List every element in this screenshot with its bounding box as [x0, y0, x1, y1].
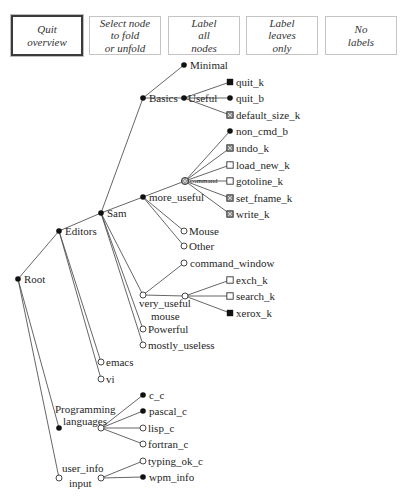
filled-circle-icon[interactable]	[140, 194, 146, 200]
node-label: write_k	[236, 208, 270, 220]
node-label: emacs	[106, 356, 133, 368]
open-circle-icon[interactable]	[98, 425, 104, 431]
open-circle-icon[interactable]	[98, 376, 104, 382]
node-label: search_k	[236, 290, 276, 302]
tree-node-powerful[interactable]: Powerful	[140, 323, 188, 335]
tree-node-useful[interactable]: Useful	[181, 92, 217, 104]
tree-edge	[101, 428, 143, 444]
tree-node-other[interactable]: Other	[181, 240, 214, 252]
hatched-square-icon[interactable]	[227, 112, 233, 118]
tree-node-lisp-c[interactable]: lisp_c	[140, 422, 174, 434]
open-circle-icon[interactable]	[98, 475, 104, 481]
filled-circle-icon[interactable]	[140, 392, 146, 398]
open-circle-icon[interactable]	[140, 342, 146, 348]
node-label: undo_k	[236, 142, 270, 154]
tree-node-wpm-info[interactable]: wpm_info	[140, 471, 195, 483]
open-square-icon[interactable]	[227, 178, 233, 184]
tree-node-default-size-k[interactable]: default_size_k	[227, 109, 301, 121]
open-circle-icon[interactable]	[98, 359, 104, 365]
filled-circle-icon[interactable]	[56, 425, 62, 431]
node-label: mouse	[151, 310, 180, 322]
open-circle-icon[interactable]	[181, 243, 187, 249]
tree-node-gotoline-k[interactable]: gotoline_k	[227, 175, 284, 187]
node-label: Editors	[65, 225, 97, 237]
tree-node-quit-b[interactable]: quit_b	[227, 92, 264, 104]
hatched-square-icon[interactable]	[227, 211, 233, 217]
filled-circle-icon[interactable]	[56, 228, 62, 234]
tree-node-undo-k[interactable]: undo_k	[227, 142, 270, 154]
node-label: c_c	[149, 389, 164, 401]
open-circle-icon[interactable]	[181, 260, 187, 266]
tree-node-root[interactable]: Root	[15, 273, 45, 285]
tree-node-write-k[interactable]: write_k	[227, 208, 270, 220]
open-square-icon[interactable]	[227, 277, 233, 283]
filled-circle-icon[interactable]	[98, 210, 104, 216]
filled-circle-icon[interactable]	[140, 95, 146, 101]
open-square-icon[interactable]	[227, 162, 233, 168]
node-label: gotoline_k	[236, 175, 284, 187]
open-circle-icon[interactable]	[140, 458, 146, 464]
node-label: Mouse	[189, 225, 219, 237]
tree-node-programming-languages[interactable]: Programminglanguages	[55, 403, 116, 431]
open-circle-icon[interactable]	[140, 326, 146, 332]
tree-node-more-useful[interactable]: more_useful	[140, 191, 204, 203]
tree-node-emacs[interactable]: emacs	[98, 356, 133, 368]
node-label: Other	[189, 240, 214, 252]
open-circle-icon[interactable]	[56, 475, 62, 481]
tree-node-typing-ok-c[interactable]: typing_ok_c	[140, 455, 203, 467]
tree-node-very-useful-hub[interactable]	[182, 293, 188, 299]
filled-circle-icon[interactable]	[140, 408, 146, 414]
hatched-square-icon[interactable]	[227, 145, 233, 151]
filled-circle-icon[interactable]	[181, 62, 187, 68]
tree-edge	[101, 213, 143, 329]
open-circle-icon[interactable]	[140, 425, 146, 431]
tree-node-mouse[interactable]: Mouse	[181, 225, 219, 237]
tree-edge	[18, 279, 59, 428]
node-label: Root	[24, 273, 45, 285]
node-label: more_useful	[149, 191, 204, 203]
tree-node-set-fname-k[interactable]: set_fname_k	[227, 192, 293, 204]
open-circle-icon[interactable]	[182, 293, 188, 299]
tree-node-user-info-input[interactable]: user_infoinput	[56, 462, 104, 489]
tree-node-exch-k[interactable]: exch_k	[227, 274, 268, 286]
tree-node-command[interactable]: command	[181, 177, 218, 185]
filled-circle-icon[interactable]	[15, 276, 21, 282]
tree-edge	[143, 295, 185, 296]
tree-node-user-info-hub[interactable]	[98, 475, 104, 481]
node-label: Powerful	[148, 323, 188, 335]
filled-square-icon[interactable]	[227, 310, 233, 316]
tree-node-vi[interactable]: vi	[98, 373, 115, 385]
node-label: Sam	[107, 207, 127, 219]
node-label: lisp_c	[148, 422, 174, 434]
filled-circle-icon[interactable]	[181, 95, 187, 101]
open-square-icon[interactable]	[227, 293, 233, 299]
node-label: quit_b	[236, 92, 265, 104]
node-label: wpm_info	[149, 471, 195, 483]
node-label: load_new_k	[236, 159, 290, 171]
tree-edge	[143, 263, 184, 295]
filled-circle-icon[interactable]	[227, 128, 233, 134]
filled-circle-icon[interactable]	[140, 474, 146, 480]
tree-edge	[101, 461, 143, 478]
tree-node-command-window[interactable]: command_window	[181, 257, 274, 269]
tree-node-non-cmd-b[interactable]: non_cmd_b	[227, 125, 288, 137]
tree-edges	[18, 65, 230, 478]
tree-node-fortran-c[interactable]: fortran_c	[140, 438, 188, 450]
tree-node-load-new-k[interactable]: load_new_k	[227, 159, 290, 171]
node-label: vi	[106, 373, 115, 385]
tree-node-editors[interactable]: Editors	[56, 225, 97, 237]
filled-square-icon[interactable]	[227, 79, 233, 85]
tree-node-mostly-useless[interactable]: mostly_useless	[140, 339, 215, 351]
tree-node-c-c[interactable]: c_c	[140, 389, 164, 401]
tree-node-xerox-k[interactable]: xerox_k	[227, 307, 273, 319]
tree-node-languages-hub[interactable]	[98, 425, 104, 431]
hatched-circle-icon[interactable]	[181, 177, 188, 184]
tree-node-minimal[interactable]: Minimal	[181, 59, 228, 71]
open-circle-icon[interactable]	[181, 228, 187, 234]
tree-node-quit-k[interactable]: quit_k	[227, 76, 265, 88]
tree-node-search-k[interactable]: search_k	[227, 290, 276, 302]
open-circle-icon[interactable]	[140, 441, 146, 447]
tree-node-pascal-c[interactable]: pascal_c	[140, 405, 187, 417]
filled-circle-icon[interactable]	[227, 95, 233, 101]
hatched-square-icon[interactable]	[227, 195, 233, 201]
